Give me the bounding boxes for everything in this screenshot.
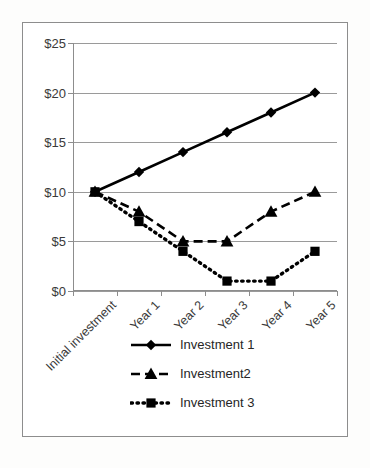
data-point-marker: [222, 127, 232, 137]
legend-item[interactable]: Investment2: [130, 359, 320, 388]
legend-item[interactable]: Investment 3: [130, 388, 320, 417]
y-tick-label: $5: [52, 234, 66, 249]
x-tick-mark: [293, 291, 294, 296]
series-line: [95, 192, 315, 242]
data-point-marker: [310, 87, 320, 97]
legend-label: Investment 3: [180, 395, 254, 410]
x-tick-mark: [249, 291, 250, 296]
legend-marker-icon: [130, 395, 172, 411]
legend-label: Investment 1: [180, 337, 254, 352]
data-point-marker: [178, 147, 188, 157]
data-point-marker: [134, 217, 143, 226]
x-tick-mark: [337, 291, 338, 296]
x-tick-label: Initial investment: [43, 298, 119, 374]
data-point-marker: [309, 185, 322, 196]
y-tick-label: $0: [52, 284, 66, 299]
data-point-marker: [266, 107, 276, 117]
data-point-marker: [266, 276, 275, 285]
series-3: [90, 187, 319, 285]
series-line: [95, 192, 315, 281]
chart-legend: Investment 1Investment2Investment 3: [130, 330, 320, 417]
x-tick-label: Year 5: [304, 298, 339, 333]
x-tick-label: Year 1: [128, 298, 163, 333]
x-tick-label: Year 4: [260, 298, 295, 333]
legend-item[interactable]: Investment 1: [130, 330, 320, 359]
x-tick-label: Year 3: [216, 298, 251, 333]
x-tick-mark: [117, 291, 118, 296]
data-point-marker: [134, 167, 144, 177]
data-point-marker: [90, 187, 99, 196]
legend-marker-icon: [130, 337, 172, 353]
data-point-marker: [178, 247, 187, 256]
x-tick-mark: [161, 291, 162, 296]
x-tick-label: Year 2: [172, 298, 207, 333]
x-tick-mark: [205, 291, 206, 296]
series-plot: [73, 43, 337, 291]
series-line: [95, 93, 315, 192]
series-1: [90, 87, 320, 197]
y-tick-label: $10: [44, 184, 66, 199]
data-point-marker: [222, 276, 231, 285]
legend-label: Investment2: [180, 366, 251, 381]
y-tick-label: $25: [44, 36, 66, 51]
plot-area: $0$5$10$15$20$25 Initial investmentYear …: [73, 43, 337, 291]
y-tick-label: $20: [44, 85, 66, 100]
data-point-marker: [310, 247, 319, 256]
series-2: [89, 185, 322, 246]
legend-marker-icon: [130, 366, 172, 382]
y-tick-label: $15: [44, 135, 66, 150]
x-tick-mark: [73, 291, 74, 296]
